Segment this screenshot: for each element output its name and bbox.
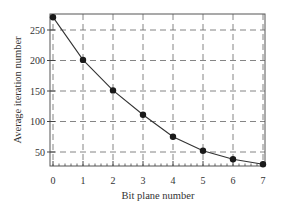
data-point-marker [260, 161, 266, 167]
data-point-marker [110, 87, 116, 93]
grid-lines [50, 14, 265, 166]
y-tick-label: 100 [30, 116, 45, 127]
x-tick-label: 0 [51, 175, 56, 186]
x-tick-label: 5 [201, 175, 206, 186]
y-tick-label: 200 [30, 55, 45, 66]
x-tick-labels: 01234567 [51, 175, 266, 186]
data-point-marker [80, 57, 86, 63]
data-point-marker [170, 134, 176, 140]
y-axis-label: Average iteration number [12, 36, 23, 144]
data-point-marker [50, 14, 56, 20]
x-tick-label: 3 [141, 175, 146, 186]
y-tick-label: 50 [35, 147, 45, 158]
data-point-marker [230, 156, 236, 162]
y-tick-labels: 50100150200250 [30, 25, 45, 158]
y-tick-label: 150 [30, 86, 45, 97]
chart-canvas: 01234567 50100150200250 Bit plane number… [0, 0, 281, 212]
x-axis-label: Bit plane number [122, 190, 195, 201]
x-tick-label: 6 [231, 175, 236, 186]
x-tick-label: 2 [111, 175, 116, 186]
axis-ticks [47, 30, 263, 166]
data-point-marker [140, 112, 146, 118]
data-point-marker [200, 148, 206, 154]
x-tick-label: 1 [81, 175, 86, 186]
y-tick-label: 250 [30, 25, 45, 36]
x-tick-label: 4 [171, 175, 176, 186]
line-chart: 01234567 50100150200250 Bit plane number… [0, 0, 281, 212]
x-tick-label: 7 [261, 175, 266, 186]
